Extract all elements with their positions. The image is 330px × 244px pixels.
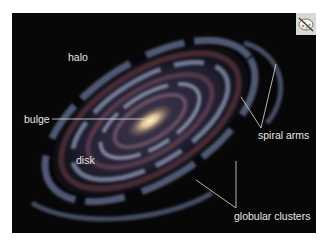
galaxy-figure: halo bulge disk spiral arms globular clu… — [12, 13, 316, 233]
label-halo: halo — [68, 51, 88, 63]
label-globular-clusters: globular clusters — [234, 210, 310, 222]
label-bulge: bulge — [24, 113, 50, 125]
palette-button[interactable] — [296, 13, 316, 35]
label-spiral-arms: spiral arms — [258, 129, 309, 141]
label-disk: disk — [76, 154, 95, 166]
palette-icon — [296, 13, 316, 35]
galaxy-image — [12, 13, 316, 233]
